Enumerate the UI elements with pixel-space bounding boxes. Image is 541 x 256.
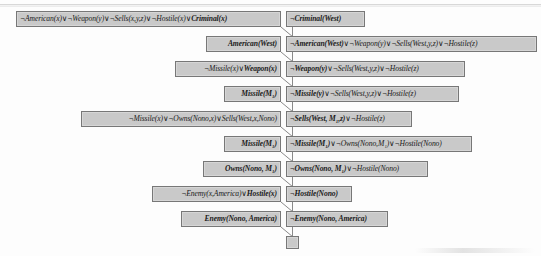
clause-left-0: ¬American(x)∨¬Weapon(y)∨¬Sells(x,y,z)∨¬H… (16, 11, 281, 27)
clause-left-8: Enemy(Nono, America) (181, 211, 281, 227)
clause-left-1-text: American(West) (228, 37, 277, 51)
clause-left-0-text: ¬American(x)∨¬Weapon(y)∨¬Sells(x,y,z)∨¬H… (20, 12, 227, 26)
clause-left-6-text: Owns(Nono, M₁) (225, 162, 277, 176)
clause-left-7-text: ¬Enemy(x,America)∨Hostile(x) (181, 187, 277, 201)
clause-right-0-text: ¬Criminal(West) (290, 12, 341, 26)
scan-artifact (415, 248, 535, 253)
clause-right-7-text: ¬Hostile(Nono) (290, 187, 338, 201)
clause-left-5-text: Missile(M₁) (241, 137, 277, 151)
clause-right-7: ¬Hostile(Nono) (286, 186, 352, 202)
clause-right-6-text: ¬Owns(Nono, M₁)∨¬Hostile(Nono) (290, 162, 399, 176)
clause-left-3: Missile(M₁) (224, 86, 281, 102)
clause-right-5-text: ¬Missile(M₁)∨¬Owns(Nono,M₁)∨¬Hostile(Non… (290, 137, 442, 151)
clause-right-2-text: ¬Weapon(y)∨¬Sells(West,y,z)∨¬Hostile(z) (290, 62, 419, 76)
clause-left-3-text: Missile(M₁) (241, 87, 277, 101)
clause-left-1: American(West) (206, 36, 281, 52)
clause-right-6: ¬Owns(Nono, M₁)∨¬Hostile(Nono) (286, 161, 428, 177)
clause-right-5: ¬Missile(M₁)∨¬Owns(Nono,M₁)∨¬Hostile(Non… (286, 136, 472, 152)
clause-left-6: Owns(Nono, M₁) (203, 161, 281, 177)
clause-right-4-text: ¬Sells(West, M₁,z)∨¬Hostile(z) (290, 112, 385, 126)
clause-right-3-text: ¬Missile(y)∨¬Sells(West,y,z)∨¬Hostile(z) (290, 87, 416, 101)
clause-left-8-text: Enemy(Nono, America) (205, 212, 277, 226)
clause-right-4: ¬Sells(West, M₁,z)∨¬Hostile(z) (286, 111, 412, 127)
clause-right-1-text: ¬American(West)∨¬Weapon(y)∨¬Sells(West,y… (290, 37, 477, 51)
clause-right-8: ¬Enemy(Nono, America) (286, 211, 388, 227)
clause-right-1: ¬American(West)∨¬Weapon(y)∨¬Sells(West,y… (286, 36, 537, 52)
clause-left-4-text: ¬Missile(x)∨¬Owns(Nono,x)∨Sells(West,x,N… (129, 112, 278, 126)
clause-left-5: Missile(M₁) (224, 136, 281, 152)
clause-right-3: ¬Missile(y)∨¬Sells(West,y,z)∨¬Hostile(z) (286, 86, 459, 102)
clause-right-2: ¬Weapon(y)∨¬Sells(West,y,z)∨¬Hostile(z) (286, 61, 465, 77)
clause-right-8-text: ¬Enemy(Nono, America) (290, 212, 367, 226)
clause-left-4: ¬Missile(x)∨¬Owns(Nono,x)∨Sells(West,x,N… (81, 111, 281, 127)
figure-canvas: ¬American(x)∨¬Weapon(y)∨¬Sells(x,y,z)∨¬H… (0, 0, 541, 256)
clause-left-2-text: ¬Missile(x)∨Weapon(x) (204, 62, 277, 76)
empty-clause-box (286, 236, 299, 249)
clause-left-7: ¬Enemy(x,America)∨Hostile(x) (152, 186, 281, 202)
clause-right-0: ¬Criminal(West) (286, 11, 365, 27)
clause-left-2: ¬Missile(x)∨Weapon(x) (175, 61, 281, 77)
